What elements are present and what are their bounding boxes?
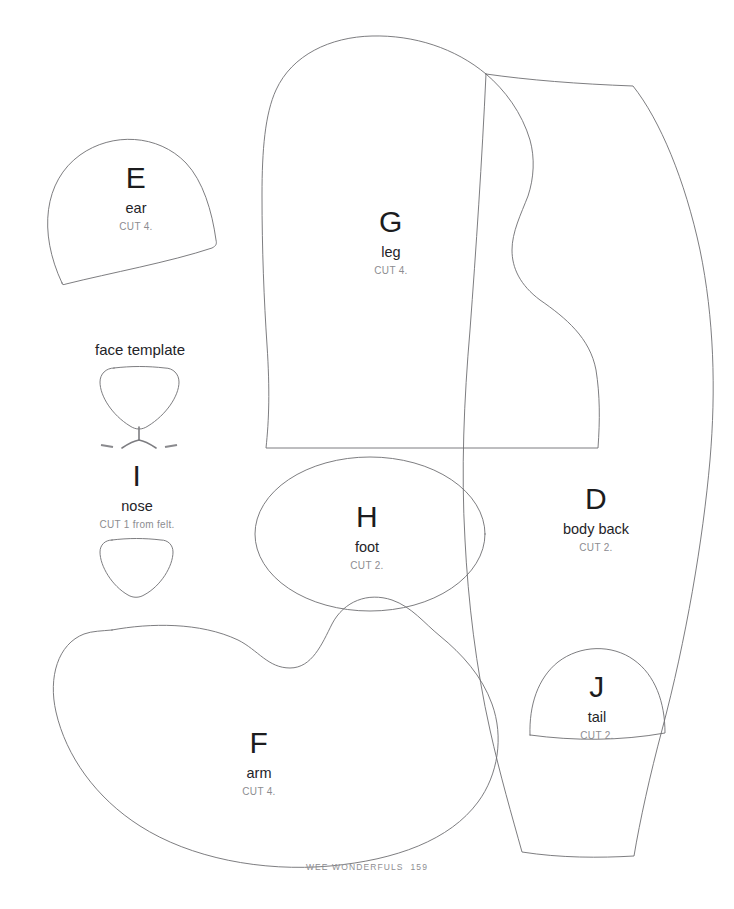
arm-outline bbox=[53, 597, 498, 867]
face-template-outline bbox=[100, 367, 179, 430]
ear-label-block: E ear CUT 4. bbox=[119, 162, 152, 232]
nose-name: nose bbox=[99, 499, 174, 515]
leg-cut: CUT 4. bbox=[374, 265, 407, 276]
tail-label-block: J tail CUT 2. bbox=[580, 671, 613, 741]
foot-label-block: H foot CUT 2. bbox=[350, 501, 383, 571]
leg-outline bbox=[262, 36, 599, 448]
foot-cut: CUT 2. bbox=[350, 560, 383, 571]
tail-cut: CUT 2. bbox=[580, 730, 613, 741]
tail-letter: J bbox=[580, 671, 613, 703]
ear-letter: E bbox=[119, 162, 152, 194]
leg-letter: G bbox=[374, 206, 407, 238]
pattern-outlines-canvas bbox=[0, 0, 734, 909]
face-mouth-left-branch bbox=[122, 440, 139, 448]
face-template-heading: face template bbox=[95, 341, 185, 358]
arm-cut: CUT 4. bbox=[242, 786, 275, 797]
nose-label-block: I nose CUT 1 from felt. bbox=[99, 460, 174, 530]
tail-name: tail bbox=[580, 710, 613, 726]
body-back-label-block: D body back CUT 2. bbox=[563, 483, 629, 553]
ear-cut: CUT 4. bbox=[119, 221, 152, 232]
face-mouth-right-branch bbox=[139, 440, 156, 448]
pattern-sheet-page: E ear CUT 4. face template I nose CUT 1 … bbox=[0, 0, 734, 909]
page-footer: WEE WONDERFULS159 bbox=[306, 862, 428, 872]
body-back-cut: CUT 2. bbox=[563, 542, 629, 553]
ear-name: ear bbox=[119, 201, 152, 217]
footer-book-title: WEE WONDERFULS bbox=[306, 862, 404, 872]
arm-label-block: F arm CUT 4. bbox=[242, 727, 275, 797]
nose-letter: I bbox=[99, 460, 174, 492]
foot-letter: H bbox=[350, 501, 383, 533]
nose-cut: CUT 1 from felt. bbox=[99, 519, 174, 530]
foot-name: foot bbox=[350, 540, 383, 556]
arm-name: arm bbox=[242, 766, 275, 782]
face-mouth-right-dash bbox=[165, 445, 177, 447]
face-mouth-left-dash bbox=[101, 445, 113, 447]
nose-outline bbox=[100, 539, 173, 598]
body-back-name: body back bbox=[563, 522, 629, 538]
arm-letter: F bbox=[242, 727, 275, 759]
body-back-letter: D bbox=[563, 483, 629, 515]
footer-page-number: 159 bbox=[411, 862, 428, 872]
leg-label-block: G leg CUT 4. bbox=[374, 206, 407, 276]
leg-name: leg bbox=[374, 245, 407, 261]
